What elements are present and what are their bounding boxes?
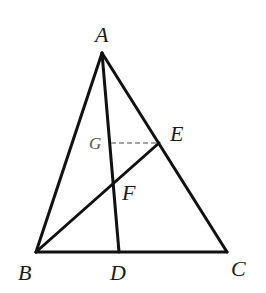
label-g: G <box>89 134 101 153</box>
label-a: A <box>93 22 109 47</box>
label-b: B <box>18 260 31 285</box>
label-e: E <box>169 121 184 146</box>
segment-ad <box>102 53 119 252</box>
geometry-diagram: A B C D E F G <box>0 0 266 293</box>
label-c: C <box>231 256 246 281</box>
label-f: F <box>121 180 136 205</box>
segment-ac <box>102 53 227 252</box>
label-d: D <box>109 260 126 285</box>
